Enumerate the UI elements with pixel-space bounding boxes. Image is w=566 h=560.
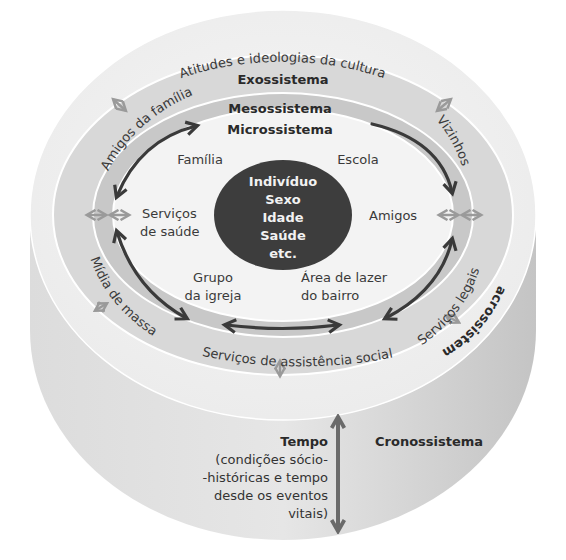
core-label-individual: Indivíduo: [249, 174, 317, 189]
exossistema-label: Exossistema: [237, 72, 328, 87]
health-services-label-2: de saúde: [140, 224, 200, 239]
family-label: Família: [177, 152, 223, 167]
cronossistema-label: Cronossistema: [375, 434, 483, 449]
core-label-sex: Sexo: [265, 192, 301, 207]
friends-label: Amigos: [369, 208, 417, 223]
leisure-area-label-2: do bairro: [301, 288, 359, 303]
health-services-label-1: Serviços: [142, 206, 197, 221]
tempo-line-2: -históricas e tempo: [203, 470, 328, 485]
tempo-title: Tempo: [280, 434, 328, 449]
leisure-area-label-1: Área de lazer: [301, 270, 388, 285]
tempo-line-4: vitais): [288, 506, 328, 521]
ecological-systems-diagram: Atitudes e ideologias da cultura Amigos …: [0, 0, 566, 560]
tempo-line-3: desde os eventos: [214, 488, 328, 503]
core-label-age: Idade: [262, 210, 303, 225]
microssistema-label: Microssistema: [227, 122, 332, 137]
tempo-line-1: (condições sócio-: [215, 452, 328, 467]
mesossistema-label: Mesossistema: [228, 101, 331, 116]
church-group-label-1: Grupo: [193, 270, 233, 285]
church-group-label-2: da igreja: [185, 288, 242, 303]
core-label-etc: etc.: [269, 246, 297, 261]
core-label-health: Saúde: [260, 228, 306, 243]
school-label: Escola: [337, 152, 379, 167]
